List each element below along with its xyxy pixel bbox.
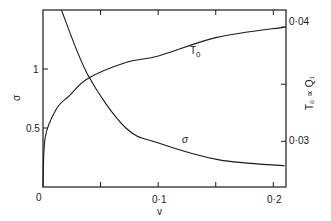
- y-right-axis-title: T₀ ∝ Q₁: [304, 75, 315, 110]
- x-axis-title: v: [157, 206, 162, 217]
- x-tick-label-0: 0: [36, 192, 42, 203]
- t0-curve-label: T0: [190, 45, 201, 59]
- sigma-curve-label: σ: [182, 134, 189, 145]
- x-tick-label-0-2: 0·2: [267, 194, 282, 205]
- t0-label-subscript: 0: [196, 50, 201, 59]
- y-tick-label-1: 1: [33, 64, 39, 75]
- y-tick-label-0-5: 0.5: [26, 123, 40, 134]
- y-right-tick-label-0-04: 0·04: [289, 16, 309, 27]
- y-right-axis-ticks: [281, 27, 286, 141]
- x-tick-label-0-1: 0·1: [152, 194, 167, 205]
- plot-frame: [43, 10, 286, 187]
- y-right-tick-label-0-03: 0·03: [289, 135, 309, 146]
- x-axis-ticks: [101, 10, 274, 187]
- y-axis-title: σ: [11, 94, 22, 101]
- sigma-curve: [61, 10, 284, 166]
- y-axis-ticks: [43, 69, 48, 128]
- chart: 0 0·1 0·2 v 0.5 1 σ 0·04 0·03 T₀ ∝ Q₁ T0…: [0, 0, 331, 221]
